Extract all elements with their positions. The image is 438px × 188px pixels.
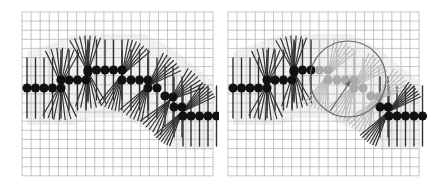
bead xyxy=(237,83,246,92)
bead xyxy=(169,102,178,111)
bead xyxy=(92,65,101,74)
left-panel xyxy=(0,0,219,188)
right-panel xyxy=(219,0,438,188)
bead xyxy=(401,111,410,120)
bead xyxy=(228,83,237,92)
bead xyxy=(287,75,296,84)
bead xyxy=(168,92,177,101)
bead xyxy=(203,111,212,120)
bead xyxy=(323,65,332,74)
bead xyxy=(383,102,392,111)
bead xyxy=(73,75,82,84)
bead xyxy=(56,75,65,84)
bead xyxy=(195,111,204,120)
bead xyxy=(186,111,195,120)
bead xyxy=(143,83,152,92)
bead xyxy=(135,75,144,84)
bead xyxy=(366,91,375,100)
bead xyxy=(298,65,307,74)
right-diagram xyxy=(219,0,438,188)
bead xyxy=(323,75,332,84)
bead xyxy=(392,111,401,120)
bead xyxy=(289,65,298,74)
right-group xyxy=(228,12,427,176)
bead xyxy=(279,75,288,84)
bead xyxy=(349,75,358,84)
bead xyxy=(332,75,341,84)
bead xyxy=(160,91,169,100)
bead xyxy=(349,83,358,92)
bead xyxy=(56,83,65,92)
bead xyxy=(315,65,324,74)
bead xyxy=(262,83,271,92)
bead xyxy=(270,75,279,84)
bead xyxy=(143,75,152,84)
bead xyxy=(245,83,254,92)
bead xyxy=(358,83,367,92)
bead xyxy=(178,111,187,120)
bead xyxy=(83,65,92,74)
bead xyxy=(31,83,40,92)
left-group xyxy=(22,12,219,176)
bead xyxy=(117,75,126,84)
bead xyxy=(39,83,48,92)
bead xyxy=(48,83,57,92)
bead xyxy=(384,111,393,120)
bead xyxy=(81,75,90,84)
bead xyxy=(409,111,418,120)
bead xyxy=(117,65,126,74)
bead xyxy=(109,65,118,74)
bead xyxy=(126,75,135,84)
bead xyxy=(100,65,109,74)
bead xyxy=(22,83,31,92)
bead xyxy=(262,75,271,84)
bead xyxy=(177,102,186,111)
left-diagram xyxy=(0,0,219,188)
bead xyxy=(64,75,73,84)
bead xyxy=(254,83,263,92)
bead xyxy=(152,83,161,92)
bead xyxy=(418,111,427,120)
